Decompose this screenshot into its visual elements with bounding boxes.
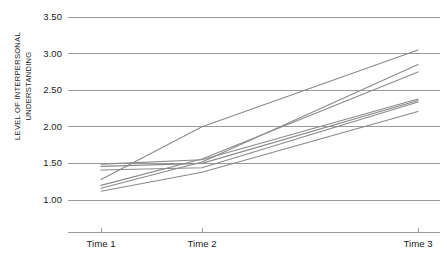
series-line (101, 72, 418, 185)
series-line (101, 111, 418, 191)
x-axis (68, 228, 440, 232)
plot-area (0, 0, 447, 259)
x-tick-label: Time 2 (167, 238, 237, 249)
x-tick-label: Time 1 (66, 238, 136, 249)
data-lines (101, 50, 418, 191)
x-tick-label: Time 3 (383, 238, 447, 249)
line-chart: LEVEL OF INTERPERSONAL UNDERSTANDING 3.5… (0, 0, 447, 259)
